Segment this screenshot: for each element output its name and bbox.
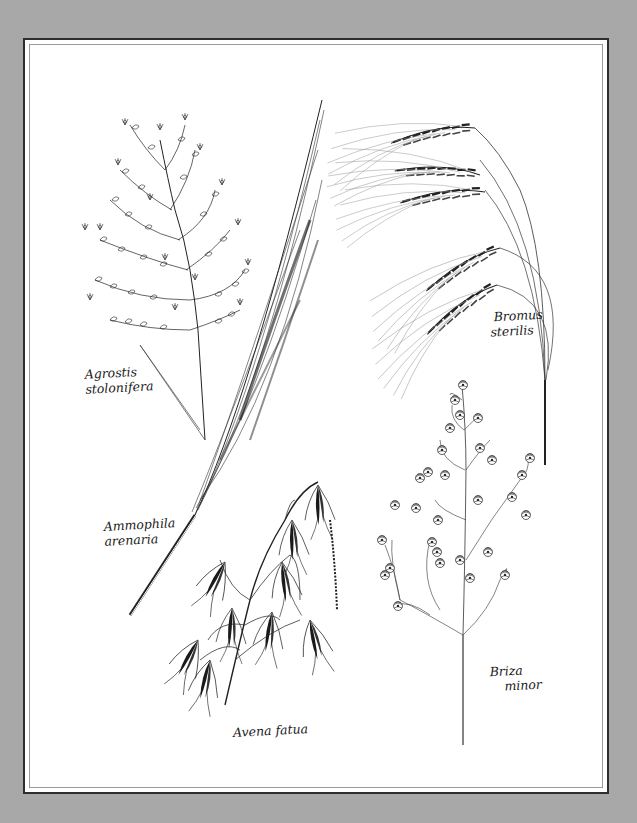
label-agrostis-stolonifera: Agrostis stolonifera — [84, 363, 153, 397]
label-species: sterilis — [490, 322, 544, 340]
label-genus: Bromus — [493, 307, 543, 325]
avena-fatua-drawing — [160, 482, 338, 718]
bromus-sterilis-drawing — [324, 117, 553, 465]
botanical-illustration — [0, 0, 637, 823]
label-bromus-sterilis: Bromus sterilis — [493, 307, 544, 340]
label-briza-minor: Briza minor — [489, 662, 542, 695]
label-ammophila-arenaria: Ammophila arenaria — [103, 515, 176, 549]
label-species: minor — [504, 677, 542, 694]
